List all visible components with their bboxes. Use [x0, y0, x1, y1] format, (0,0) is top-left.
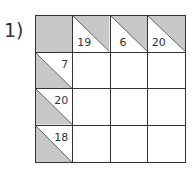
entry-cell-r2c2[interactable] — [111, 89, 148, 126]
column-clue-sum: 19 — [77, 36, 91, 49]
puzzle-label: 1) — [4, 19, 24, 41]
row-clue-sum: 18 — [54, 131, 68, 144]
entry-cell-r2c1[interactable] — [73, 89, 110, 126]
entry-cell-r3c2[interactable] — [111, 126, 148, 163]
column-clue-sum: 20 — [152, 36, 166, 49]
entry-cell-r1c2[interactable] — [111, 53, 148, 90]
entry-cell-r3c1[interactable] — [73, 126, 110, 163]
entry-cell-r1c3[interactable] — [148, 53, 185, 90]
row-clue-1: 7 — [36, 53, 73, 90]
row-clue-sum: 20 — [54, 94, 68, 107]
entry-cell-r3c3[interactable] — [148, 126, 185, 163]
row-clue-2: 20 — [36, 89, 73, 126]
column-clue-3: 20 — [148, 16, 185, 53]
column-clue-sum: 6 — [120, 36, 127, 49]
row-clue-sum: 7 — [61, 58, 68, 71]
corner-block — [36, 16, 73, 53]
row-clue-3: 18 — [36, 126, 73, 163]
column-clue-2: 6 — [111, 16, 148, 53]
kakuro-grid: 19 6 20 7 20 18 — [35, 15, 186, 163]
column-clue-1: 19 — [73, 16, 110, 53]
entry-cell-r2c3[interactable] — [148, 89, 185, 126]
entry-cell-r1c1[interactable] — [73, 53, 110, 90]
